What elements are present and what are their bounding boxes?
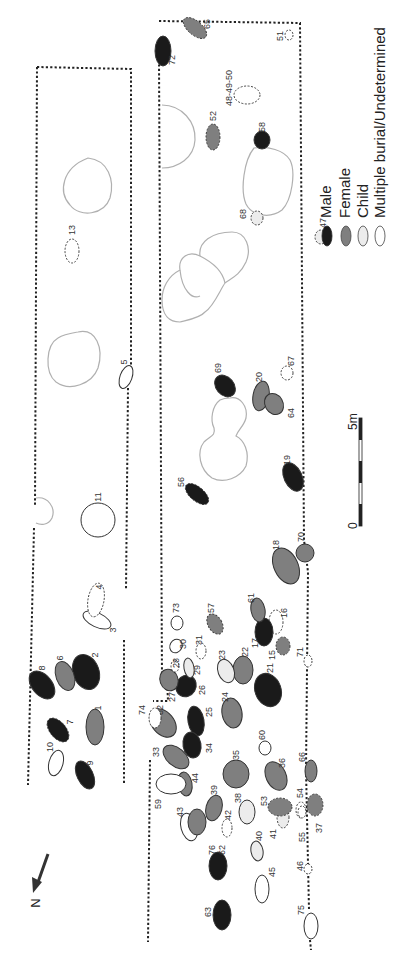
burial-label: 74: [137, 705, 147, 715]
burial-31: 31: [194, 635, 206, 659]
burial-label: 70: [296, 532, 306, 542]
burial-label: 21: [265, 663, 275, 673]
burial-label: 17: [250, 638, 260, 648]
burial-label: 42: [223, 810, 233, 820]
burial-label: 4: [94, 584, 104, 589]
burial-label: 16: [279, 608, 289, 618]
burial-label: 61: [246, 593, 256, 603]
burial-label: 27: [167, 692, 177, 702]
male-swatch-icon: [322, 226, 332, 246]
burial-label: 7: [65, 719, 75, 724]
burial-label: 63: [203, 907, 213, 917]
burial-shape-male: [254, 131, 270, 149]
pit-outline: [36, 498, 53, 525]
burial-69: 69: [210, 363, 239, 401]
burial-36: 36: [261, 758, 292, 794]
burial-66: 66: [297, 752, 317, 782]
burial-shape-male: [213, 900, 231, 930]
burial-shape-undetermined: [65, 239, 79, 263]
burial-shape-female: [296, 544, 314, 562]
burial-label: 45: [267, 867, 277, 877]
burial-label: 71: [295, 647, 305, 657]
burial-label: 59: [153, 799, 163, 809]
burial-label: 72: [167, 55, 177, 65]
burial-shape-undetermined: [222, 819, 232, 837]
legend-label-child: Child: [354, 184, 371, 218]
burial-label: 52: [208, 111, 218, 121]
burial-shape-undetermined: [259, 741, 271, 755]
burial-65: 65: [180, 14, 212, 43]
burial-11: 11: [81, 492, 115, 537]
burial-17: 17: [250, 618, 273, 648]
burial-shape-male: [24, 666, 60, 703]
burial-label: 9: [85, 760, 95, 765]
burial-label: 69: [213, 363, 223, 373]
burial-shape-female: [188, 809, 206, 835]
scale-end-label: 5m: [346, 413, 360, 430]
burial-shape-child: [249, 840, 264, 862]
burial-label: 11: [93, 492, 103, 501]
legend-label-undetermined: Multiple burial/Undetermined: [371, 27, 388, 218]
burial-label: 29: [192, 665, 202, 675]
burial-label: 44: [190, 773, 200, 783]
burial-label: 37: [314, 823, 324, 833]
burial-label: 60: [257, 730, 267, 740]
burial-label: 68: [238, 209, 248, 219]
pit-outline: [64, 158, 112, 213]
burial-shape-female: [307, 794, 323, 816]
pit-outline: [162, 105, 195, 168]
burial-73: 73: [171, 603, 183, 630]
burial-67: 67: [281, 356, 296, 380]
burial-label: 19: [282, 455, 292, 465]
north-arrow: N: [28, 854, 48, 908]
burial-71: 71: [295, 647, 312, 667]
pit-outlines: [36, 105, 293, 524]
burial-shape-undetermined: [281, 366, 293, 380]
burial-shape-female: [206, 124, 220, 150]
burial-7: 7: [43, 714, 75, 746]
burial-label: 48-49-50: [224, 70, 234, 106]
burial-label: 22: [240, 647, 250, 657]
burial-8: 8: [24, 665, 60, 703]
burial-shape-female: [268, 798, 292, 816]
burial-label: 53: [259, 796, 269, 806]
burial-label: 64: [286, 408, 296, 418]
scale-bar: 5m 0: [346, 413, 362, 529]
burial-label: 38: [233, 793, 243, 803]
legend-label-male: Male: [317, 185, 334, 218]
burial-label: 23: [217, 650, 227, 660]
burial-52: 52: [206, 111, 220, 150]
burial-shape-undetermined: [149, 708, 161, 728]
burial-22: 22: [233, 647, 253, 684]
burial-9: 9: [71, 758, 98, 792]
burial-label: 54: [295, 788, 305, 798]
burial-shape-undetermined: [255, 875, 269, 903]
burial-label: 73: [171, 603, 181, 613]
burial-shape-undetermined: [298, 806, 306, 818]
burial-label: 10: [45, 742, 55, 752]
burial-label: 6: [55, 655, 65, 660]
burial-label: 3: [108, 627, 118, 632]
burial-label: 66: [297, 752, 307, 762]
burial-57: 57: [203, 603, 226, 637]
burial-label: 40: [254, 831, 264, 841]
burial-label: 33: [151, 747, 161, 757]
burial-label: 30: [178, 639, 188, 649]
burial-70: 70: [296, 532, 314, 562]
burial-60: 60: [257, 730, 271, 755]
burial-label: 1: [93, 705, 103, 710]
legend-item-female: Female: [336, 168, 353, 246]
burial-label: 76: [207, 845, 217, 855]
burial-10: 10: [45, 742, 66, 777]
burial-shape-undetermined: [285, 30, 293, 40]
burial-42: 42: [222, 810, 233, 837]
burial-shape-female: [223, 760, 249, 788]
burial-label: 51: [275, 31, 285, 41]
burial-label: 65: [202, 19, 212, 29]
burial-58: 58: [254, 122, 270, 149]
burial-56: 56: [176, 477, 212, 508]
burial-13: 13: [65, 225, 79, 263]
burial-19: 19: [279, 455, 308, 494]
burial-site-plan: 1234567891011131516171819202122232425262…: [0, 0, 397, 972]
burial-shape-undetermined: [304, 655, 312, 667]
